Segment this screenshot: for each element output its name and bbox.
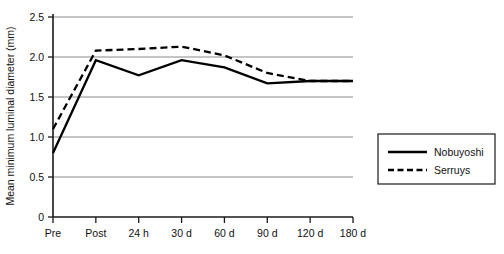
y-axis-tick-label: 2.5 bbox=[29, 11, 44, 23]
legend: Nobuyoshi Serruys bbox=[378, 134, 495, 184]
y-axis-title: Mean minimum luminal diameter (mm) bbox=[4, 26, 16, 205]
x-axis-tick-label: 30 d bbox=[171, 227, 192, 239]
y-axis-tick-label: 0 bbox=[38, 211, 44, 223]
chart-svg: 00.51.01.52.02.5 PrePost24 h30 d60 d90 d… bbox=[0, 0, 504, 254]
y-axis-tick-label: 2.0 bbox=[29, 51, 44, 63]
legend-label-serruys: Serruys bbox=[434, 164, 470, 176]
legend-box bbox=[378, 134, 495, 184]
x-axis-tick-label: 24 h bbox=[128, 227, 149, 239]
x-axis-tick-label: 180 d bbox=[340, 227, 366, 239]
legend-label-nobuyoshi: Nobuyoshi bbox=[434, 146, 484, 158]
x-axis-tick-label: 90 d bbox=[257, 227, 278, 239]
y-axis-tick-label: 1.0 bbox=[29, 131, 44, 143]
x-axis-tick-label: 60 d bbox=[214, 227, 235, 239]
y-axis-tick-label: 1.5 bbox=[29, 91, 44, 103]
series-line-nobuyoshi bbox=[53, 60, 353, 153]
x-axis-tick-label: Pre bbox=[45, 227, 62, 239]
series-line-serruys bbox=[53, 47, 353, 129]
line-chart: 00.51.01.52.02.5 PrePost24 h30 d60 d90 d… bbox=[0, 0, 504, 254]
y-axis-tick-label: 0.5 bbox=[29, 171, 44, 183]
x-axis-tick-label: 120 d bbox=[297, 227, 323, 239]
x-axis-tick-label: Post bbox=[85, 227, 106, 239]
gridlines bbox=[53, 17, 353, 177]
y-axis-tick-labels: 00.51.01.52.02.5 bbox=[29, 11, 44, 223]
x-axis-ticks bbox=[53, 217, 353, 223]
x-axis-tick-labels: PrePost24 h30 d60 d90 d120 d180 d bbox=[45, 227, 366, 239]
